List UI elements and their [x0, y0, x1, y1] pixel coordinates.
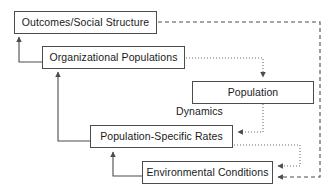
- node-label-outcomes-social-structure: Outcomes/Social Structure: [22, 17, 149, 28]
- node-label-population-specific-rates: Population-Specific Rates: [100, 131, 223, 142]
- node-label-population: Population: [228, 87, 279, 98]
- node-outcomes-social-structure[interactable]: Outcomes/Social Structure: [14, 11, 157, 34]
- edge-org-to-population: [186, 58, 263, 77]
- node-environmental-conditions[interactable]: Environmental Conditions: [142, 161, 273, 184]
- node-population-specific-rates[interactable]: Population-Specific Rates: [90, 125, 233, 148]
- edge-env-to-rates: [113, 152, 142, 176]
- node-population[interactable]: Population: [192, 81, 314, 104]
- edge-org-to-outcomes: [19, 37, 42, 62]
- annotation-dynamics: Dynamics: [176, 106, 223, 117]
- diagram-canvas: Outcomes/Social Structure Organizational…: [0, 0, 334, 191]
- node-label-organizational-populations: Organizational Populations: [49, 52, 177, 63]
- edge-population-to-rates: [238, 104, 263, 132]
- node-organizational-populations[interactable]: Organizational Populations: [42, 46, 185, 69]
- node-label-environmental-conditions: Environmental Conditions: [146, 167, 268, 178]
- edge-rates-to-org: [58, 72, 90, 141]
